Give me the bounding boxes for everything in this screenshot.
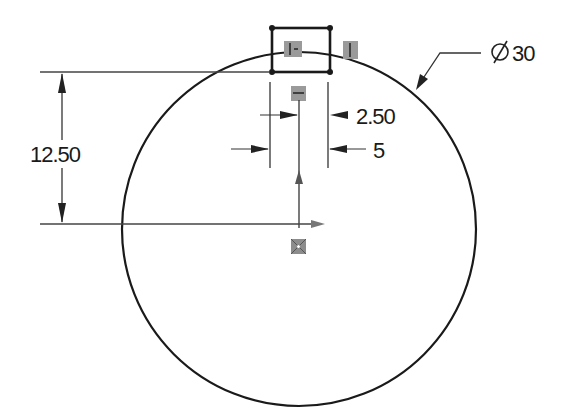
vertical-relation-icon-right [343,41,358,59]
origin-x-arrow [311,220,325,228]
origin-y-arrow [295,170,303,184]
diameter-label[interactable]: 30 [492,41,535,66]
vertical-relation-icon [284,41,302,57]
diameter-value[interactable]: 30 [512,41,535,66]
horizontal-relation-icon [291,86,306,101]
half-width-dimension-label[interactable]: 2.50 [356,104,396,129]
diameter-leader[interactable] [416,53,481,90]
sketch-canvas: 12.50 2.50 5 30 [0,0,572,420]
half-width-dimension[interactable] [260,111,348,119]
slot-width-dimension-label[interactable]: 5 [373,138,385,163]
vertical-dimension-label[interactable]: 12.50 [30,142,81,167]
origin-icon [291,239,306,254]
